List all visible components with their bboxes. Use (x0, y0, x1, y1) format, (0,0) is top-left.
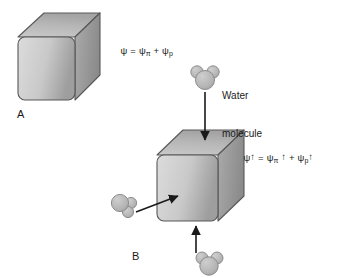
formula-a-term2: ψp (162, 45, 173, 56)
formula-b-term2: ψp (298, 152, 309, 163)
water-molecule-callout: Water molecule (222, 65, 262, 165)
water-molecule-callout-line1: Water (222, 90, 262, 103)
molecule-top (191, 66, 219, 90)
water-molecule-callout-line2: molecule (222, 128, 262, 141)
formula-a-lhs: ψ (121, 45, 128, 56)
molecule-left (111, 194, 136, 217)
cell-cube-a (18, 13, 100, 100)
panel-label-b: B (132, 250, 140, 264)
molecule-bottom (196, 252, 223, 275)
formula-panel-a: ψ=ψπ+ψp (110, 33, 173, 70)
formula-a-plus: + (154, 45, 160, 56)
formula-b-term1-arrow-icon: ↑ (281, 151, 286, 162)
formula-b-plus: + (289, 152, 295, 163)
formula-b-term2-arrow-icon: ↑ (308, 151, 313, 162)
formula-a-term1: ψπ (139, 45, 151, 56)
panel-label-a: A (17, 108, 25, 122)
figure-root: A B ψ=ψπ+ψp ψ↑=ψπ↑+ψp↑ Water molecule (0, 0, 343, 278)
formula-b-term1: ψπ (267, 152, 279, 163)
formula-a-equals: = (130, 45, 136, 56)
